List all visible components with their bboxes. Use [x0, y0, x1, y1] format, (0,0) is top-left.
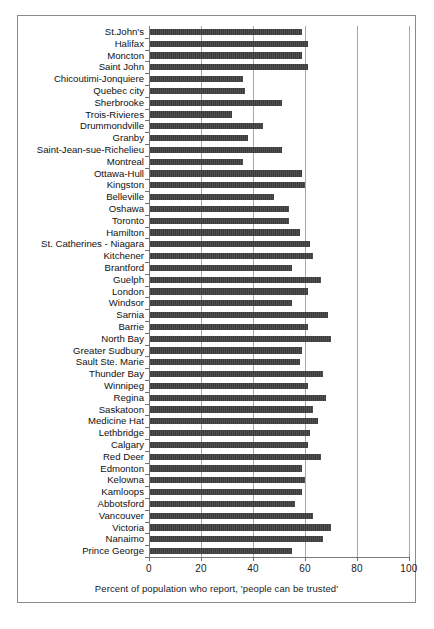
category-label: Montreal	[12, 156, 144, 167]
bar	[149, 52, 302, 58]
bar	[149, 182, 305, 188]
bar	[149, 395, 326, 401]
y-axis-line	[149, 26, 150, 557]
category-label: Trois-Rivieres	[12, 109, 144, 120]
category-label: Thunder Bay	[12, 368, 144, 379]
category-label: Medicine Hat	[12, 415, 144, 426]
category-label: Abbotsford	[12, 498, 144, 509]
category-label: Victoria	[12, 522, 144, 533]
bar	[149, 347, 302, 353]
category-label: Brantford	[12, 262, 144, 273]
bar	[149, 253, 313, 259]
category-label: North Bay	[12, 333, 144, 344]
category-label: Barrie	[12, 321, 144, 332]
bar	[149, 442, 308, 448]
category-label: Sarnia	[12, 309, 144, 320]
x-tick-mark-0	[149, 557, 150, 561]
gridline-80	[357, 26, 358, 557]
category-label: Prince George	[12, 545, 144, 556]
x-tick-mark-100	[409, 557, 410, 561]
bar	[149, 548, 292, 554]
category-label: Drummondville	[12, 120, 144, 131]
bar	[149, 241, 310, 247]
x-tick-label-20: 20	[181, 563, 221, 574]
bar	[149, 159, 243, 165]
bar	[149, 454, 321, 460]
bar	[149, 359, 300, 365]
bar	[149, 312, 328, 318]
bar	[149, 371, 323, 377]
x-tick-label-100: 100	[389, 563, 429, 574]
bar	[149, 229, 300, 235]
bar	[149, 489, 302, 495]
category-label: Calgary	[12, 439, 144, 450]
bar	[149, 513, 313, 519]
category-label: Saskatoon	[12, 404, 144, 415]
category-label: Edmonton	[12, 463, 144, 474]
x-tick-label-60: 60	[285, 563, 325, 574]
bar	[149, 524, 331, 530]
category-label: Winnipeg	[12, 380, 144, 391]
category-label: Sherbrooke	[12, 97, 144, 108]
bar	[149, 336, 331, 342]
bar	[149, 300, 292, 306]
bar	[149, 194, 274, 200]
bar	[149, 406, 313, 412]
category-label: Oshawa	[12, 203, 144, 214]
bar	[149, 265, 292, 271]
x-axis-title: Percent of population who report, 'peopl…	[17, 583, 416, 594]
category-label: Chicoutimi-Jonquiere	[12, 73, 144, 84]
bar	[149, 29, 302, 35]
bar	[149, 501, 295, 507]
bar	[149, 147, 282, 153]
category-label: Hamilton	[12, 227, 144, 238]
bar	[149, 123, 263, 129]
bar	[149, 277, 321, 283]
chart-figure: St.John'sHalifaxMonctonSaint JohnChicout…	[0, 0, 434, 629]
bar	[149, 218, 289, 224]
x-tick-label-0: 0	[129, 563, 169, 574]
category-label: St. Catherines - Niagara	[12, 238, 144, 249]
category-label: Toronto	[12, 215, 144, 226]
bar	[149, 170, 302, 176]
category-label: Guelph	[12, 274, 144, 285]
category-label: Kelowna	[12, 474, 144, 485]
category-label: Lethbridge	[12, 427, 144, 438]
category-label: Moncton	[12, 50, 144, 61]
bar	[149, 324, 308, 330]
bar	[149, 418, 318, 424]
x-tick-label-40: 40	[233, 563, 273, 574]
bar	[149, 100, 282, 106]
x-tick-mark-80	[357, 557, 358, 561]
category-label: Granby	[12, 132, 144, 143]
category-label: Kitchener	[12, 250, 144, 261]
category-label: Saint-Jean-sue-Richelieu	[12, 144, 144, 155]
bar	[149, 383, 308, 389]
bar	[149, 536, 323, 542]
x-tick-mark-20	[201, 557, 202, 561]
category-label: St.John's	[12, 26, 144, 37]
category-label: Vancouver	[12, 510, 144, 521]
bar	[149, 76, 243, 82]
gridline-100	[409, 26, 410, 557]
bar	[149, 465, 302, 471]
category-label: Nanaimo	[12, 533, 144, 544]
category-label: Regina	[12, 392, 144, 403]
bar	[149, 135, 248, 141]
category-label: Ottawa-Hull	[12, 168, 144, 179]
bar	[149, 111, 232, 117]
category-label: Windsor	[12, 297, 144, 308]
x-tick-mark-60	[305, 557, 306, 561]
category-label: Halifax	[12, 38, 144, 49]
category-label: Red Deer	[12, 451, 144, 462]
bar	[149, 41, 308, 47]
bar	[149, 64, 308, 70]
x-tick-mark-40	[253, 557, 254, 561]
x-tick-label-80: 80	[337, 563, 377, 574]
bar	[149, 288, 308, 294]
category-label: Sault Ste. Marie	[12, 356, 144, 367]
x-axis-line	[149, 557, 410, 558]
category-label: Belleville	[12, 191, 144, 202]
category-label: Quebec city	[12, 85, 144, 96]
category-label: Kingston	[12, 179, 144, 190]
